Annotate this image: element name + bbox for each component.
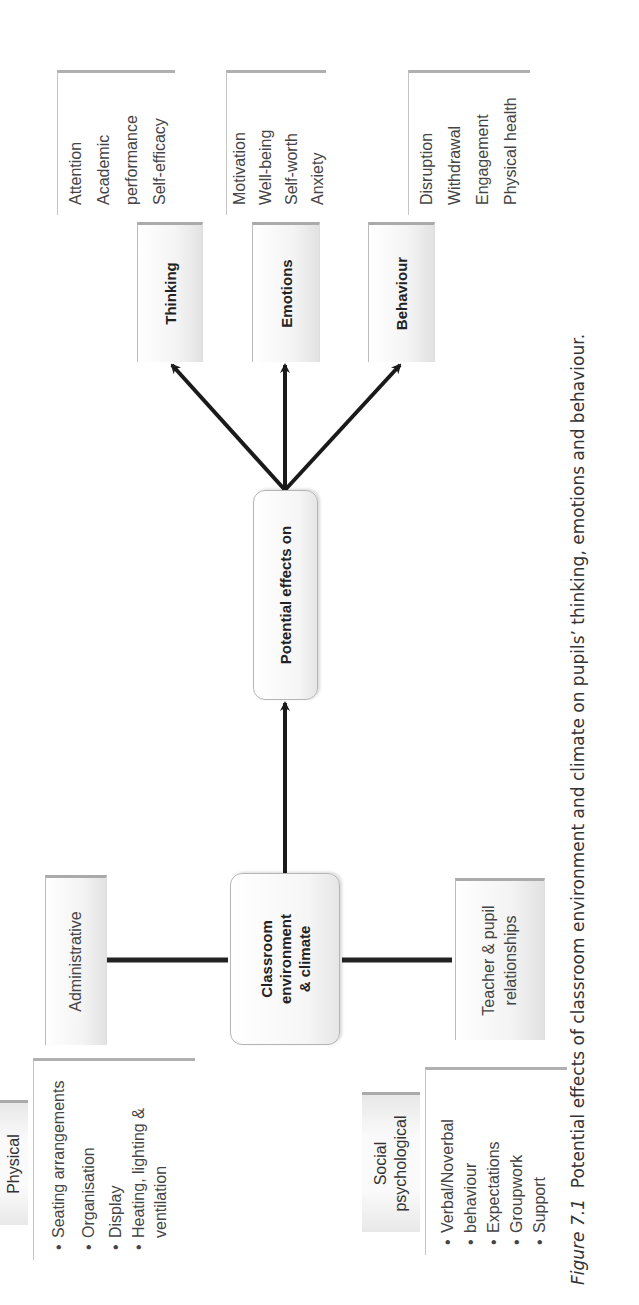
social-line-1: Social — [371, 1115, 391, 1211]
root-line-2: environment — [276, 914, 295, 1004]
physical-item: Display — [104, 1071, 128, 1250]
detail-item: Self-worth — [279, 83, 305, 205]
emotions-box: Emotions — [252, 222, 320, 362]
detail-item: Academic — [90, 83, 118, 205]
arrow-to-thinking — [172, 365, 285, 490]
physical-item: ventilation — [150, 1071, 172, 1250]
behaviour-label: Behaviour — [393, 257, 410, 330]
social-item: Support — [528, 1080, 551, 1245]
detail-item: Self-efficacy — [146, 83, 174, 205]
detail-item: Attention — [62, 83, 90, 205]
root-line-1: Classroom — [257, 914, 276, 1004]
figure-caption: Figure 7.1 Potential effects of classroo… — [568, 15, 588, 1285]
physical-items: Seating arrangements Organisation Displa… — [33, 1058, 195, 1260]
classroom-environment-box: Classroom environment & climate — [230, 873, 340, 1045]
detail-item: Motivation — [227, 83, 253, 205]
social-item: behaviour — [459, 1080, 482, 1245]
social-psychological-items: Verbal/Noverbal behaviour Expectations G… — [425, 1067, 567, 1255]
physical-item: Heating, lighting & — [128, 1071, 150, 1250]
figure-label: Figure 7.1 — [568, 1199, 588, 1285]
social-line-2: psychological — [391, 1115, 411, 1211]
potential-effects-label: Potential effects on — [277, 526, 294, 664]
administrative-box: Administrative — [45, 875, 107, 1045]
emotions-label: Emotions — [278, 259, 295, 327]
detail-item: Engagement — [469, 83, 497, 205]
social-item: Expectations — [482, 1080, 505, 1245]
thinking-label: Thinking — [162, 262, 179, 325]
thinking-details: Attention Academic performance Self-effi… — [57, 70, 175, 215]
detail-item: Well-being — [253, 83, 279, 205]
behaviour-details: Disruption Withdrawal Engagement Physica… — [408, 70, 530, 215]
detail-item: Physical health — [497, 83, 525, 205]
root-line-3: & climate — [295, 914, 314, 1004]
behaviour-box: Behaviour — [368, 222, 435, 362]
teacher-pupil-line-1: Teacher & pupil — [478, 905, 500, 1015]
physical-item: Seating arrangements — [44, 1071, 74, 1250]
teacher-pupil-box: Teacher & pupil relationships — [455, 878, 545, 1040]
caption-text: Potential effects of classroom environme… — [568, 334, 588, 1188]
detail-item: performance — [118, 83, 146, 205]
detail-item: Withdrawal — [441, 83, 469, 205]
arrow-to-behaviour — [285, 365, 400, 490]
social-psychological-label-box: Social psychological — [362, 1092, 420, 1232]
teacher-pupil-line-2: relationships — [500, 905, 522, 1015]
administrative-label: Administrative — [67, 911, 85, 1011]
physical-item: Organisation — [74, 1071, 104, 1250]
physical-label: Physical — [4, 1134, 24, 1194]
social-item: Groupwork — [505, 1080, 528, 1245]
detail-item: Anxiety — [305, 83, 331, 205]
physical-label-box: Physical — [0, 1100, 28, 1225]
potential-effects-box: Potential effects on — [253, 490, 318, 700]
diagram-canvas: Classroom environment & climate Potentia… — [0, 0, 639, 1305]
social-item: Verbal/Noverbal — [436, 1080, 459, 1245]
detail-item: Disruption — [413, 83, 441, 205]
emotions-details: Motivation Well-being Self-worth Anxiety — [226, 70, 326, 215]
thinking-box: Thinking — [137, 222, 203, 362]
